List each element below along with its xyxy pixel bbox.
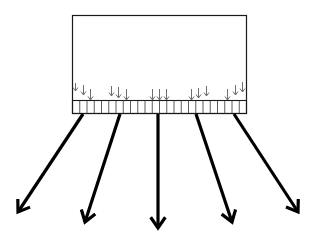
outgoing-ray-3: [151, 114, 166, 228]
outgoing-ray-2: [81, 114, 120, 222]
outgoing-ray-shaft: [18, 114, 83, 212]
incoming-ray-group-3: [150, 89, 169, 100]
outgoing-ray-5: [234, 114, 298, 212]
diagram-canvas: [0, 0, 313, 246]
ray-diagram: [0, 0, 313, 246]
outgoing-rays: [18, 114, 298, 228]
outgoing-ray-shaft: [234, 114, 298, 212]
outgoing-ray-shaft: [196, 114, 232, 222]
outgoing-ray-shaft: [85, 114, 120, 222]
outgoing-ray-1: [18, 114, 83, 212]
outgoing-ray-4: [196, 114, 236, 222]
